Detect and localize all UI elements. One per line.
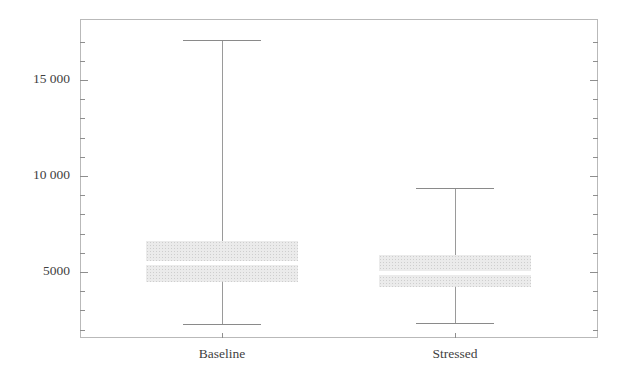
whisker-upper-baseline	[222, 40, 223, 242]
y-axis-major-tick-right-15000	[590, 80, 598, 81]
x-axis-tick-baseline	[222, 333, 223, 338]
y-axis-minor-tick-right-4000	[593, 291, 598, 292]
whisker-lower-baseline	[222, 282, 223, 324]
x-axis-tick-stressed	[455, 333, 456, 338]
y-axis-minor-tick-12000	[80, 138, 85, 139]
whisker-upper-stressed	[455, 188, 456, 254]
y-axis-major-tick-right-5000	[590, 272, 598, 273]
y-axis-minor-tick-right-7000	[593, 234, 598, 235]
y-axis-minor-tick-7000	[80, 234, 85, 235]
y-axis-minor-tick-16000	[80, 61, 85, 62]
median-line-stressed	[379, 271, 531, 275]
y-axis-minor-tick-right-14000	[593, 99, 598, 100]
y-axis-minor-tick-3000	[80, 310, 85, 311]
whisker-cap-upper-stressed	[416, 188, 494, 189]
y-axis-minor-tick-13000	[80, 118, 85, 119]
y-axis-major-tick-right-10000	[590, 176, 598, 177]
plot-frame	[80, 19, 598, 338]
y-axis-minor-tick-4000	[80, 291, 85, 292]
whisker-cap-upper-baseline	[183, 40, 261, 41]
y-axis-major-tick-10000	[80, 176, 88, 177]
y-axis-minor-tick-right-8000	[593, 214, 598, 215]
y-axis-tick-label-5000: 5000	[8, 263, 70, 279]
y-axis-minor-tick-17000	[80, 42, 85, 43]
median-line-baseline	[146, 261, 298, 265]
x-axis-tick-label-baseline: Baseline	[199, 346, 246, 362]
y-axis-minor-tick-right-16000	[593, 61, 598, 62]
y-axis-minor-tick-8000	[80, 214, 85, 215]
y-axis-minor-tick-right-12000	[593, 138, 598, 139]
y-axis-minor-tick-11000	[80, 157, 85, 158]
y-axis-major-tick-15000	[80, 80, 88, 81]
y-axis-minor-tick-right-9000	[593, 195, 598, 196]
y-axis-tick-label-10000: 10 000	[8, 167, 70, 183]
y-axis-major-tick-5000	[80, 272, 88, 273]
y-axis-minor-tick-6000	[80, 253, 85, 254]
y-axis-minor-tick-14000	[80, 99, 85, 100]
whisker-cap-lower-stressed	[416, 323, 494, 324]
y-axis-minor-tick-2000	[80, 330, 85, 331]
y-axis-minor-tick-right-17000	[593, 42, 598, 43]
x-axis-tick-label-stressed: Stressed	[433, 346, 478, 362]
y-axis-minor-tick-right-3000	[593, 310, 598, 311]
y-axis-minor-tick-9000	[80, 195, 85, 196]
y-axis-tick-label-15000: 15 000	[8, 71, 70, 87]
y-axis-minor-tick-right-11000	[593, 157, 598, 158]
box-plot-figure: 5000 10 000 15 000 Baseline Stressed	[0, 0, 626, 385]
y-axis-minor-tick-right-13000	[593, 118, 598, 119]
y-axis-minor-tick-right-2000	[593, 330, 598, 331]
y-axis-minor-tick-right-6000	[593, 253, 598, 254]
whisker-lower-stressed	[455, 287, 456, 323]
whisker-cap-lower-baseline	[183, 324, 261, 325]
